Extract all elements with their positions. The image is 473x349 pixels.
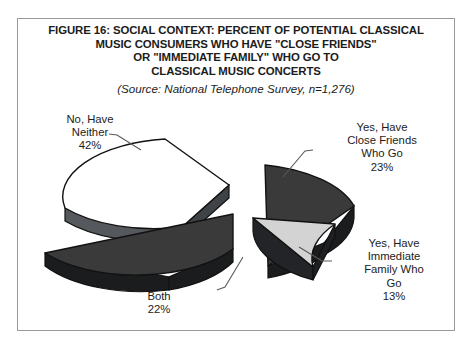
pie-label-immediate-family-line-3: Family Who: [335, 263, 453, 276]
figure-title-block: FIGURE 16: SOCIAL CONTEXT: PERCENT OF PO…: [17, 24, 455, 98]
pie-label-immediate-family-value: 13%: [335, 290, 453, 303]
page-title-line-1: FIGURE 16: SOCIAL CONTEXT: PERCENT OF PO…: [17, 24, 455, 38]
page-title-line-4: CLASSICAL MUSIC CONCERTS: [17, 65, 455, 79]
pie-label-neither-line-1: No, Have: [35, 113, 145, 126]
pie-label-close-friends: Yes, Have Close Friends Who Go 23%: [317, 121, 447, 174]
pie-slice-immediate-family: [253, 218, 335, 280]
pie-label-neither: No, Have Neither 42%: [35, 113, 145, 153]
figure-source-note: (Source: National Telephone Survey, n=1,…: [17, 80, 455, 98]
pie-label-both-line-1: Yes, Have: [103, 277, 215, 290]
pie-label-immediate-family: Yes, Have Immediate Family Who Go 13%: [335, 237, 453, 303]
page-title-line-3: OR "IMMEDIATE FAMILY" WHO GO TO: [17, 51, 455, 65]
pie-label-close-friends-line-2: Close Friends: [317, 134, 447, 147]
pie-label-neither-value: 42%: [35, 139, 145, 152]
pie-label-immediate-family-line-2: Immediate: [335, 250, 453, 263]
figure-screenshot: FIGURE 16: SOCIAL CONTEXT: PERCENT OF PO…: [0, 0, 473, 349]
pie-label-neither-line-2: Neither: [35, 126, 145, 139]
page-title-line-2: MUSIC CONSUMERS WHO HAVE "CLOSE FRIENDS": [17, 38, 455, 52]
pie-chart: No, Have Neither 42% Yes, Have Close Fri…: [17, 105, 455, 331]
pie-label-close-friends-line-3: Who Go: [317, 147, 447, 160]
pie-label-both-line-2: Both: [103, 290, 215, 303]
pie-label-close-friends-value: 23%: [317, 161, 447, 174]
pie-label-close-friends-line-1: Yes, Have: [317, 121, 447, 134]
pie-label-both: Yes, Have Both 22%: [103, 277, 215, 317]
pie-label-immediate-family-line-4: Go: [335, 277, 453, 290]
pie-label-immediate-family-line-1: Yes, Have: [335, 237, 453, 250]
pie-label-both-value: 22%: [103, 303, 215, 316]
